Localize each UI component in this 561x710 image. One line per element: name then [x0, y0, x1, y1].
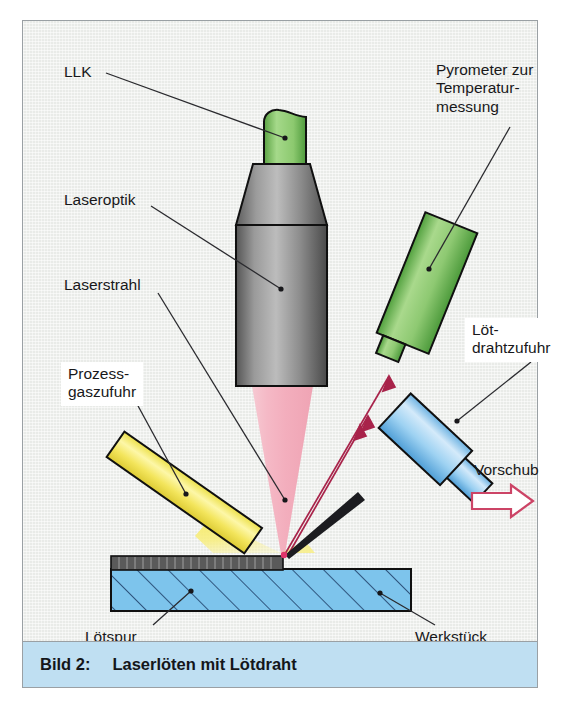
workpiece	[111, 569, 411, 611]
laser-optic	[236, 164, 327, 386]
label-vorschub: Vorschub	[474, 461, 539, 479]
diagram-area: LLK Laseroptik Laserstrahl Pyrometer zur…	[23, 21, 537, 641]
label-prozessgaszufuhr: Prozess- gaszufuhr	[61, 362, 143, 406]
figure-frame: LLK Laseroptik Laserstrahl Pyrometer zur…	[22, 20, 538, 688]
pyrometer	[370, 212, 478, 371]
figure-caption-bar: Bild 2: Laserlöten mit Lötdraht	[23, 641, 537, 687]
caption-number: Bild 2:	[40, 655, 90, 674]
label-llk: LLK	[64, 63, 92, 81]
label-loetdrahtzufuhr: Löt- drahtzufuhr	[465, 318, 557, 362]
solder-wire-tip	[285, 492, 365, 559]
focal-point	[281, 552, 287, 558]
caption-title: Laserlöten mit Lötdraht	[112, 655, 296, 674]
solder-track	[111, 556, 283, 570]
figure-page: LLK Laseroptik Laserstrahl Pyrometer zur…	[0, 0, 561, 710]
label-pyrometer-temperaturmessung: Pyrometer zur Temperatur- messung	[436, 61, 533, 116]
label-laserstrahl: Laserstrahl	[64, 276, 141, 294]
label-laseroptik: Laseroptik	[64, 191, 136, 209]
